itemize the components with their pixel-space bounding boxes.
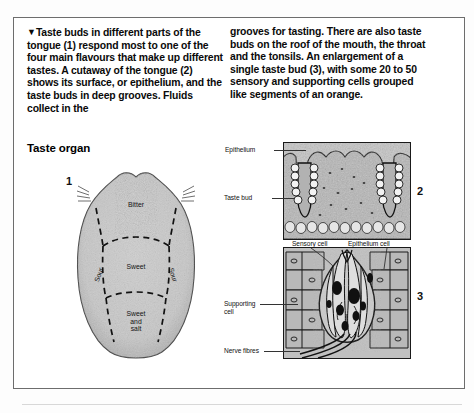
leader-epithelium — [274, 150, 306, 151]
label-supporting-cell: Supporting cell — [224, 300, 255, 316]
figure-number-2: 2 — [417, 185, 423, 197]
page-root: ▼Taste buds in different parts of the to… — [0, 0, 474, 413]
tongue-diagram: Bitter Sweet Sweet and salt Sour Sour — [72, 168, 200, 364]
taste-zone-label-sweet: Sweet — [117, 263, 155, 271]
taste-zone-label-bitter: Bitter — [118, 201, 154, 209]
sweet-salt-line-3: salt — [131, 325, 142, 332]
label-nerve-fibres: Nerve fibres — [224, 347, 259, 355]
basal-cell-layer — [285, 222, 405, 234]
label-taste-bud: Taste bud — [224, 194, 252, 202]
supporting-cell-line-1: Supporting — [224, 300, 255, 307]
sweet-salt-line-2: and — [130, 318, 141, 325]
bullet-triangle-icon: ▼ — [27, 27, 36, 37]
intro-paragraph-right: grooves for tasting. There are also tast… — [230, 26, 430, 102]
section-heading: Taste organ — [27, 142, 90, 154]
intro-left-text: Taste buds in different parts of the ton… — [27, 27, 223, 114]
taste-bud-detail-panel — [283, 247, 411, 359]
label-epithelium: Epithelium — [225, 146, 255, 154]
groove-right — [383, 163, 396, 217]
groove-left — [298, 163, 311, 217]
footer-rule — [22, 404, 462, 405]
leader-supporting-cell — [260, 304, 298, 305]
leader-taste-bud — [272, 198, 294, 199]
leader-nerve-fibres — [264, 351, 300, 352]
leader-sensory-cell — [310, 247, 336, 269]
sweet-salt-line-1: Sweet — [127, 310, 146, 317]
tongue-cutaway-svg — [284, 143, 410, 239]
leader-epithelium-cell — [381, 247, 391, 271]
supporting-cell-line-2: cell — [224, 308, 234, 315]
tongue-cutaway-panel — [283, 142, 411, 240]
figure-number-3: 3 — [417, 290, 423, 302]
taste-bud-detail-svg — [284, 248, 410, 358]
taste-zone-label-sweet-and-salt: Sweet and salt — [117, 310, 155, 333]
intro-paragraph-left: ▼Taste buds in different parts of the to… — [27, 26, 223, 115]
